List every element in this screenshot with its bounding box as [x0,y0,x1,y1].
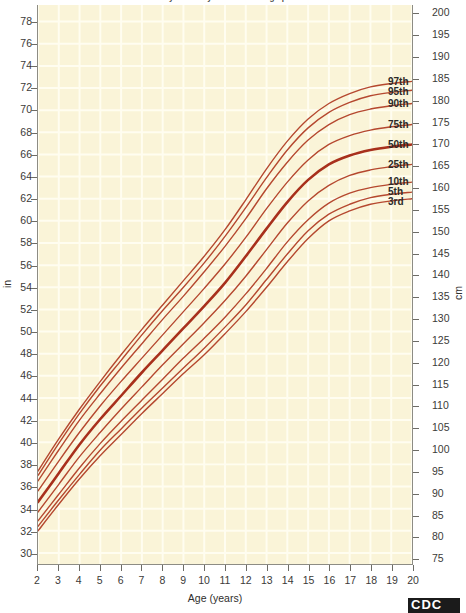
left-tickmark-32 [31,532,37,533]
x-tick-10: 10 [193,574,215,586]
left-tickmark-52 [31,310,37,311]
left-tickmark-36 [31,487,37,488]
left-tickmark-64 [31,177,37,178]
right-tickmark-160 [413,188,419,189]
x-tick-5: 5 [89,574,111,586]
x-tickmark-19 [392,565,393,571]
percentile-curves [38,5,412,564]
left-tickmark-78 [31,22,37,23]
left-tickmark-48 [31,354,37,355]
right-tick-185: 185 [432,73,450,84]
right-tickmark-165 [413,166,419,167]
x-tickmark-11 [225,565,226,571]
x-tick-20: 20 [402,574,424,586]
x-tickmark-9 [183,565,184,571]
left-tickmark-46 [31,376,37,377]
right-axis-unit-label: cm [452,286,464,300]
left-tickmark-30 [31,554,37,555]
x-tickmark-14 [288,565,289,571]
left-tickmark-50 [31,332,37,333]
right-tickmark-105 [413,428,419,429]
percentile-label-75th: 75th [388,120,409,130]
right-tickmark-95 [413,472,419,473]
x-tickmark-4 [79,565,80,571]
right-tick-200: 200 [432,7,450,18]
right-tickmark-170 [413,144,419,145]
left-tickmark-70 [31,110,37,111]
x-tick-9: 9 [172,574,194,586]
right-tickmark-85 [413,516,419,517]
x-tick-19: 19 [381,574,403,586]
right-tick-80: 80 [432,531,444,542]
right-tick-85: 85 [432,510,444,521]
percentile-label-25th: 25th [388,160,409,170]
left-axis-inches: 7876747270686664626058565452504846444240… [0,0,34,613]
x-tickmark-18 [371,565,372,571]
x-tick-2: 2 [26,574,48,586]
percentile-label-90th: 90th [388,99,409,109]
x-tick-7: 7 [130,574,152,586]
left-tickmark-44 [31,399,37,400]
x-tickmark-5 [100,565,101,571]
x-tickmark-15 [309,565,310,571]
x-tick-13: 13 [256,574,278,586]
percentile-label-50th: 50th [388,140,409,150]
cdc-logo: CDC [408,598,460,613]
right-tickmark-120 [413,363,419,364]
right-tick-180: 180 [432,95,450,106]
left-axis-unit-label: in [1,280,13,288]
right-tickmark-145 [413,254,419,255]
x-tick-17: 17 [339,574,361,586]
right-tickmark-140 [413,275,419,276]
right-tickmark-190 [413,57,419,58]
left-tickmark-72 [31,88,37,89]
x-tick-15: 15 [298,574,320,586]
right-tick-110: 110 [432,400,449,411]
left-tickmark-56 [31,266,37,267]
left-tickmark-66 [31,155,37,156]
x-tickmark-7 [141,565,142,571]
left-tickmark-76 [31,44,37,45]
left-tickmark-58 [31,243,37,244]
x-tickmark-10 [204,565,205,571]
right-tickmark-180 [413,101,419,102]
right-tickmark-175 [413,123,419,124]
right-tick-90: 90 [432,488,444,499]
x-axis-title: Age (years) [0,592,430,604]
right-tick-195: 195 [432,29,450,40]
percentile-label-3rd: 3rd [388,197,404,207]
x-tick-4: 4 [68,574,90,586]
right-tick-125: 125 [432,335,450,346]
right-tick-170: 170 [432,138,450,149]
right-tickmark-135 [413,297,419,298]
right-tickmark-200 [413,13,419,14]
right-tick-75: 75 [432,553,444,564]
left-tickmark-40 [31,443,37,444]
left-tickmark-38 [31,465,37,466]
right-tickmark-150 [413,232,419,233]
x-tick-3: 3 [47,574,69,586]
x-tick-16: 16 [318,574,340,586]
right-tick-190: 190 [432,51,450,62]
x-tickmark-13 [267,565,268,571]
right-tick-115: 115 [432,379,449,390]
right-tick-135: 135 [432,291,450,302]
x-tick-14: 14 [277,574,299,586]
x-tickmark-16 [329,565,330,571]
right-tickmark-100 [413,450,419,451]
right-tickmark-110 [413,406,419,407]
right-tickmark-125 [413,341,419,342]
x-tickmark-2 [37,565,38,571]
x-tick-12: 12 [235,574,257,586]
right-tickmark-90 [413,494,419,495]
right-tick-155: 155 [432,204,450,215]
right-tick-105: 105 [432,422,450,433]
right-tick-140: 140 [432,269,450,280]
x-tick-11: 11 [214,574,236,586]
x-tick-6: 6 [110,574,132,586]
x-tick-8: 8 [151,574,173,586]
x-tickmark-20 [413,565,414,571]
x-tickmark-3 [58,565,59,571]
page-title: 2 to 20 years: Boys Stature-for-age perc… [0,0,466,2]
growth-chart: 2 to 20 years: Boys Stature-for-age perc… [0,0,466,613]
